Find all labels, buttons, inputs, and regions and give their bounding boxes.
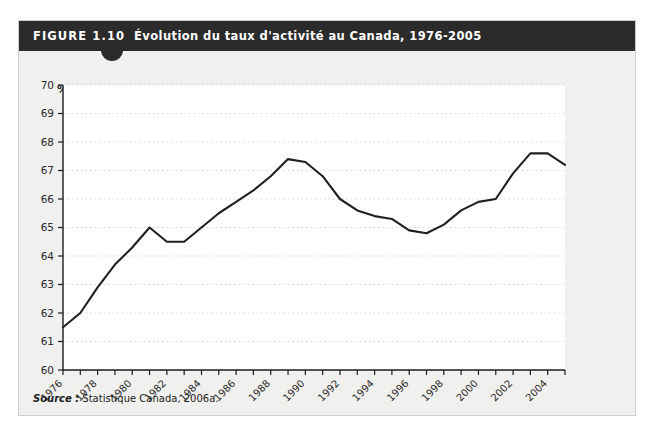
x-tick-label: 2004 — [523, 378, 549, 404]
x-tick-label: 1994 — [350, 378, 376, 404]
x-tick-label: 1998 — [419, 378, 445, 404]
y-tick-label: 70 — [41, 79, 54, 91]
plot-background-rect — [63, 85, 565, 370]
y-tick-label: 61 — [41, 335, 54, 347]
figure-card: FIGURE 1.10Évolution du taux d'activité … — [18, 20, 636, 416]
y-tick-label: 62 — [41, 307, 54, 319]
plot-background — [63, 85, 565, 370]
x-tick-label: 1996 — [385, 378, 411, 404]
y-tick-label: 64 — [41, 250, 55, 262]
figure-number: FIGURE 1.10 — [33, 29, 125, 43]
y-axis-ticks-group: 6061626364656667686970 — [41, 79, 63, 376]
x-tick-label: 1992 — [316, 378, 342, 404]
figure-header-bar: FIGURE 1.10Évolution du taux d'activité … — [19, 21, 635, 51]
x-tick-label: 1990 — [281, 378, 307, 404]
plot-area: 6061626364656667686970 19761978198019821… — [19, 51, 637, 417]
x-tick-label: 2002 — [489, 378, 515, 404]
y-tick-label: 65 — [41, 221, 54, 233]
figure-title: Évolution du taux d'activité au Canada, … — [125, 29, 482, 43]
y-tick-label: 63 — [41, 278, 54, 290]
figure-header-title: FIGURE 1.10Évolution du taux d'activité … — [19, 29, 482, 43]
source-note: Source :Statistique Canada, 2006a. — [33, 393, 219, 404]
source-label: Source : — [33, 393, 79, 404]
y-tick-label: 68 — [41, 136, 54, 148]
line-chart-svg: 6061626364656667686970 19761978198019821… — [19, 51, 637, 417]
y-tick-label: 67 — [41, 164, 54, 176]
y-tick-label: 69 — [41, 107, 54, 119]
y-tick-label: 60 — [41, 364, 54, 376]
x-tick-label: 1988 — [246, 378, 272, 404]
y-tick-label: 66 — [41, 193, 55, 205]
x-tick-label: 2000 — [454, 378, 480, 404]
source-text: Statistique Canada, 2006a. — [79, 393, 218, 404]
